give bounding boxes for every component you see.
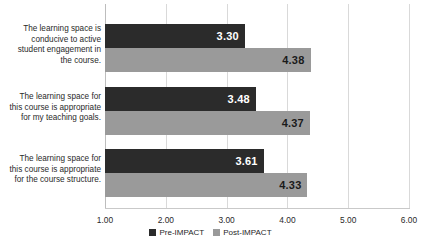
bar-post-3: 4.33: [105, 173, 307, 197]
x-axis-line: [105, 208, 410, 209]
legend-item-pre-impact[interactable]: Pre-IMPACT: [149, 228, 204, 237]
x-tick-label-3: 3.00: [207, 215, 247, 225]
category-label-1-line-4: the course.: [0, 56, 101, 67]
x-tick-label-6: 6.00: [389, 215, 421, 225]
category-label-3-line-1: The learning space for: [0, 154, 101, 165]
category-label-2-line-2: this course is appropriate: [0, 103, 101, 114]
category-label-3-line-2: this course is appropriate: [0, 165, 101, 176]
gridline-6: [409, 4, 410, 209]
bar-group-3: 3.61 4.33: [105, 149, 409, 197]
x-tick-label-5: 5.00: [328, 215, 368, 225]
plot-area: 3.30 4.38 3.48 4.37 3.61 4.33: [105, 4, 409, 209]
bar-value-post-1: 4.38: [282, 54, 304, 66]
bar-value-pre-2: 3.48: [228, 93, 250, 105]
x-tick-label-4: 4.00: [267, 215, 307, 225]
legend-label-pre-impact: Pre-IMPACT: [159, 228, 204, 237]
bar-value-pre-3: 3.61: [235, 155, 257, 167]
bar-group-2: 3.48 4.37: [105, 87, 409, 135]
bar-pre-3: 3.61: [105, 149, 264, 173]
bar-value-post-3: 4.33: [279, 179, 301, 191]
bar-group-1: 3.30 4.38: [105, 24, 409, 72]
category-label-3: The learning space for this course is ap…: [0, 154, 101, 186]
category-label-3-line-3: for the course structure.: [0, 175, 101, 186]
category-label-1: The learning space is conducive to activ…: [0, 24, 101, 66]
bar-chart: 3.30 4.38 3.48 4.37 3.61 4.33: [0, 0, 421, 241]
legend-swatch-post-impact: [213, 229, 220, 236]
x-tick-label-1: 1.00: [85, 215, 125, 225]
category-label-2: The learning space for this course is ap…: [0, 92, 101, 124]
bar-pre-2: 3.48: [105, 87, 256, 111]
category-label-1-line-3: student engagement in: [0, 45, 101, 56]
chart-legend: Pre-IMPACT Post-IMPACT: [0, 228, 421, 237]
category-label-1-line-1: The learning space is: [0, 24, 101, 35]
bar-post-1: 4.38: [105, 48, 311, 72]
legend-swatch-pre-impact: [149, 229, 156, 236]
category-label-1-line-2: conducive to active: [0, 35, 101, 46]
category-label-2-line-3: for my teaching goals.: [0, 113, 101, 124]
legend-label-post-impact: Post-IMPACT: [223, 228, 271, 237]
x-tick-label-2: 2.00: [146, 215, 186, 225]
bar-value-post-2: 4.37: [282, 117, 304, 129]
bar-value-pre-1: 3.30: [217, 30, 239, 42]
legend-item-post-impact[interactable]: Post-IMPACT: [213, 228, 271, 237]
category-label-2-line-1: The learning space for: [0, 92, 101, 103]
bar-pre-1: 3.30: [105, 24, 245, 48]
bar-post-2: 4.37: [105, 111, 310, 135]
